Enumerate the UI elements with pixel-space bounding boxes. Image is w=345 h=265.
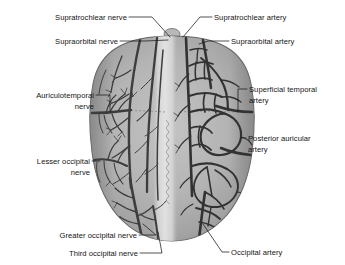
leader-supratrochlear-artery bbox=[183, 17, 212, 37]
label-posterior-auricular-artery-line1: Posterior auricular bbox=[248, 134, 311, 143]
label-auriculotemporal-nerve-line2: nerve bbox=[75, 102, 94, 111]
label-supraorbital-nerve: Supraorbital nerve bbox=[55, 37, 118, 46]
label-greater-occipital-nerve: Greater occipital nerve bbox=[59, 231, 137, 240]
label-occipital-artery: Occipital artery bbox=[231, 248, 283, 257]
label-lesser-occipital-nerve-line1: Lesser occipital bbox=[37, 157, 90, 166]
label-supratrochlear-nerve: Supratrochlear nerve bbox=[55, 13, 127, 22]
label-supratrochlear-artery: Supratrochlear artery bbox=[214, 13, 287, 22]
label-superficial-temporal-artery-line1: Superficial temporal bbox=[249, 85, 317, 94]
sagittal-midline-strip bbox=[152, 34, 178, 244]
scalp-anatomy-figure: Supratrochlear nerve Supraorbital nerve … bbox=[0, 0, 345, 265]
label-auriculotemporal-nerve-line1: Auriculotemporal bbox=[36, 91, 94, 100]
label-supraorbital-artery: Supraorbital artery bbox=[231, 37, 295, 46]
label-posterior-auricular-artery-line2: artery bbox=[248, 145, 268, 154]
label-lesser-occipital-nerve-line2: nerve bbox=[71, 168, 90, 177]
left-rim-shade bbox=[88, 34, 114, 244]
label-superficial-temporal-artery-line2: artery bbox=[249, 96, 269, 105]
label-third-occipital-nerve: Third occipital nerve bbox=[69, 249, 138, 258]
